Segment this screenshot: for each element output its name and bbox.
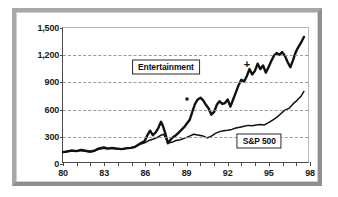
x-axis-tick-mark-95 bbox=[269, 162, 270, 166]
x-axis-tick-mark-97 bbox=[296, 162, 297, 166]
y-axis-tick-label-1500: 1,500 bbox=[37, 23, 59, 33]
y-axis-tick-label-1200: 1,200 bbox=[37, 50, 59, 60]
x-axis-tick-label-92: 92 bbox=[223, 168, 233, 178]
plot-area: 03006009001,2001,50080838689929598+Enter… bbox=[62, 27, 309, 163]
x-axis-tick-mark-91 bbox=[214, 162, 215, 166]
x-axis-tick-mark-96 bbox=[283, 162, 284, 166]
gridline-y-900 bbox=[63, 82, 308, 83]
x-axis-tick-label-83: 83 bbox=[99, 168, 109, 178]
x-axis-tick-mark-85 bbox=[132, 162, 133, 166]
x-axis-tick-label-98: 98 bbox=[305, 168, 315, 178]
x-axis-tick-label-95: 95 bbox=[264, 168, 274, 178]
x-axis-tick-mark-84 bbox=[118, 162, 119, 166]
y-axis-tick-mark-1200 bbox=[60, 55, 63, 56]
gridline-y-600 bbox=[63, 110, 308, 111]
y-axis-tick-mark-900 bbox=[60, 82, 63, 83]
x-axis-tick-mark-90 bbox=[200, 162, 201, 166]
x-axis-tick-label-89: 89 bbox=[182, 168, 192, 178]
entertainment-callout: Entertainment bbox=[132, 59, 200, 74]
square-marker bbox=[185, 97, 188, 100]
chart-figure-frame: 03006009001,2001,50080838689929598+Enter… bbox=[12, 8, 322, 186]
x-axis-tick-mark-89 bbox=[187, 162, 188, 166]
y-axis-tick-mark-1500 bbox=[60, 28, 63, 29]
x-axis-tick-mark-93 bbox=[241, 162, 242, 166]
y-axis-tick-mark-600 bbox=[60, 110, 63, 111]
y-axis-tick-label-600: 600 bbox=[45, 105, 59, 115]
y-axis-tick-mark-300 bbox=[60, 137, 63, 138]
y-axis-tick-label-900: 900 bbox=[45, 77, 59, 87]
x-axis-tick-label-86: 86 bbox=[141, 168, 151, 178]
x-axis-tick-label-80: 80 bbox=[58, 168, 68, 178]
x-axis-tick-mark-94 bbox=[255, 162, 256, 166]
sp500-callout: S&P 500 bbox=[237, 133, 282, 148]
y-axis-tick-label-300: 300 bbox=[45, 132, 59, 142]
x-axis-tick-mark-86 bbox=[145, 162, 146, 166]
x-axis-tick-mark-88 bbox=[173, 162, 174, 166]
x-axis-tick-mark-81 bbox=[77, 162, 78, 166]
x-axis-tick-mark-80 bbox=[63, 162, 64, 166]
gridline-y-1200 bbox=[63, 55, 308, 56]
x-axis-tick-mark-92 bbox=[228, 162, 229, 166]
x-axis-tick-mark-98 bbox=[310, 162, 311, 166]
x-axis-tick-mark-82 bbox=[90, 162, 91, 166]
plus-marker: + bbox=[244, 58, 250, 69]
x-axis-tick-mark-83 bbox=[104, 162, 105, 166]
chart-figure-inner: 03006009001,2001,50080838689929598+Enter… bbox=[16, 12, 318, 182]
x-axis-tick-mark-87 bbox=[159, 162, 160, 166]
